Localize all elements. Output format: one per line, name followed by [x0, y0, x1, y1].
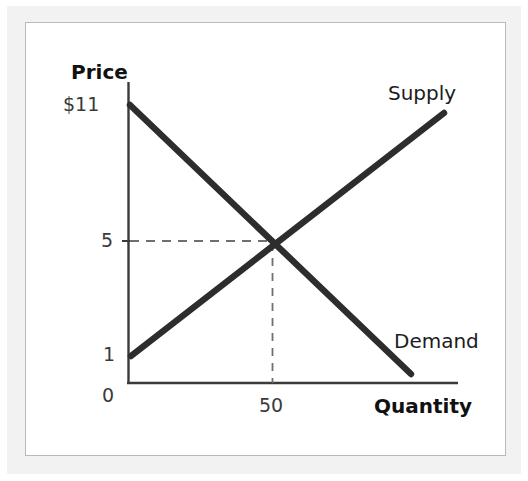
- y-tick-label-11: $11: [63, 95, 99, 114]
- demand-curve: [130, 105, 411, 374]
- plot-area: Price Quantity $11 5 1 0 50 Supply Deman…: [0, 0, 528, 481]
- figure-root: Price Quantity $11 5 1 0 50 Supply Deman…: [0, 0, 528, 481]
- y-tick-label-0: 0: [102, 386, 114, 405]
- supply-curve-label: Supply: [388, 83, 456, 103]
- y-axis-title: Price: [71, 62, 128, 82]
- x-tick-label-50: 50: [259, 396, 283, 415]
- demand-curve-label: Demand: [394, 331, 479, 351]
- y-tick-label-1: 1: [103, 345, 115, 364]
- y-tick-label-5: 5: [101, 231, 113, 250]
- x-axis-title: Quantity: [374, 396, 472, 416]
